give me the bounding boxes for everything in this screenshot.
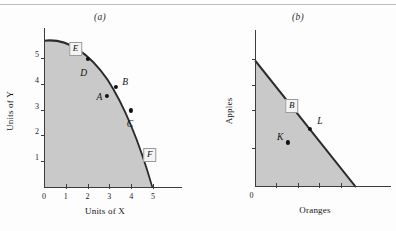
panel-a-xticklabel-5: 5 [151,192,155,201]
panel-b: (b) 0 Oranges Apples K [200,0,396,231]
panel-a-xticklabel-2: 2 [86,192,90,201]
panel-a-xticklabel-4: 4 [129,192,133,201]
panel-b-xtick-3 [319,183,320,188]
panel-a-xticklabel-0: 0 [42,192,46,201]
panel-a-ytick-3 [41,110,46,111]
panel-a-boxed-label-F[interactable]: F [143,148,157,162]
panel-a-point-B-label: B [122,77,128,87]
panel-a-ytick-2 [41,135,46,136]
panel-b-xtick-1 [276,183,277,188]
panel-b-y-axis [255,30,256,187]
panel-b-ytick-4 [252,59,257,60]
panel-a-yticklabel-1: 1 [35,153,39,162]
panel-b-boxed-label-B[interactable]: B [285,99,299,113]
panel-a-point-C-label: C [127,119,133,129]
panel-a-boxed-label-E[interactable]: E [69,42,83,56]
panel-b-frontier-region [255,35,375,187]
panel-b-x-axis [255,186,391,187]
panel-a-yticklabel-3: 3 [35,101,39,110]
panel-b-y-axis-title: Apples [224,98,234,125]
panel-b-origin-label: 0 [249,191,253,200]
panel-a-point-A-label: A [97,92,103,102]
panel-b-xtick-2 [298,183,299,188]
panel-a-y-axis-title: Units of Y [5,91,15,131]
panel-a-ytick-4 [41,84,46,85]
panel-a-xtick-3 [109,184,110,189]
panel-a-xtick-1 [66,184,67,189]
panel-b-point-L-label: L [317,116,322,126]
panel-a-plot-area: 1 2 3 4 5 0 1 2 3 4 5 Units of X Units o… [44,33,166,188]
figure-canvas: (a) 1 2 3 4 5 [0,0,396,231]
panel-a-xtick-2 [88,184,89,189]
panel-a: (a) 1 2 3 4 5 [0,0,200,231]
panel-a-xticklabel-1: 1 [64,192,68,201]
panel-b-ytick-3 [252,85,257,86]
panel-a-frontier-region [44,33,166,188]
panel-a-y-axis [44,28,45,188]
panel-a-x-axis [44,187,182,188]
panel-b-xtick-4 [341,183,342,188]
panel-a-xtick-4 [131,184,132,189]
panel-b-plot-area: 0 Oranges Apples K L B [255,35,375,187]
panel-b-ytick-2 [252,110,257,111]
panel-a-x-axis-title: Units of X [85,206,125,216]
panel-a-ytick-1 [41,161,46,162]
panel-b-point-K-label: K [277,132,283,142]
panel-a-xticklabel-3: 3 [107,192,111,201]
panel-a-frontier-svg [44,33,166,188]
panel-a-caption: (a) [0,12,200,22]
panel-a-yticklabel-5: 5 [35,49,39,58]
panel-a-yticklabel-4: 4 [35,75,39,84]
panel-a-shaded-area [44,40,153,188]
panel-a-yticklabel-2: 2 [35,127,39,136]
panel-b-caption: (b) [200,12,396,22]
panel-b-frontier-svg [255,35,375,187]
panel-a-ytick-5 [41,58,46,59]
panel-b-ytick-1 [252,148,257,149]
panel-a-xtick-5 [153,184,154,189]
panel-b-x-axis-title: Oranges [299,205,330,215]
panel-a-point-D-label: D [80,68,87,78]
